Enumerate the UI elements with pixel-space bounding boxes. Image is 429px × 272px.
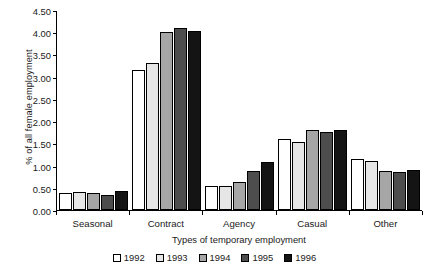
legend-label-1996: 1996 [295,252,316,263]
plot-area: 0.000.501.001.502.002.503.003.504.004.50 [56,11,422,211]
x-axis-tickmark [422,211,423,215]
chart-legend: 19921993199419951996 [0,252,429,263]
bar-group-other [349,11,422,210]
legend-item-1995[interactable]: 1995 [241,252,273,263]
bar-casual-1996 [334,130,347,210]
bar-casual-1994 [306,130,319,210]
x-axis-category-labels: SeasonalContractAgencyCasualOther [56,218,422,229]
bar-other-1992 [351,159,364,210]
bar-group-contract [130,11,203,210]
legend-label-1994: 1994 [210,252,231,263]
bar-seasonal-1993 [73,192,86,210]
legend-label-1995: 1995 [252,252,273,263]
bar-group-casual [276,11,349,210]
y-axis-tickmark [53,122,56,123]
x-axis-tickmark [56,211,57,215]
bar-group-agency [203,11,276,210]
y-axis-tickmark [53,78,56,79]
x-axis-tickmark [202,211,203,215]
legend-item-1994[interactable]: 1994 [199,252,231,263]
y-axis-title: % of all female employment [24,12,34,202]
bar-casual-1995 [320,132,333,210]
y-axis-tickmark [53,189,56,190]
legend-label-1992: 1992 [124,252,145,263]
bar-agency-1992 [205,186,218,210]
bar-groups [57,11,422,210]
y-axis-tickmark [53,144,56,145]
legend-swatch-icon-1995 [241,254,249,262]
x-axis-label-seasonal: Seasonal [56,218,129,229]
x-axis-label-contract: Contract [129,218,202,229]
bar-casual-1992 [278,139,291,210]
bar-contract-1992 [132,70,145,210]
bar-agency-1996 [261,162,274,210]
bar-other-1996 [407,170,420,210]
bar-contract-1993 [146,63,159,210]
legend-item-1993[interactable]: 1993 [156,252,188,263]
legend-item-1992[interactable]: 1992 [113,252,145,263]
x-axis-label-other: Other [349,218,422,229]
y-axis-tickmark [53,167,56,168]
bar-agency-1993 [219,186,232,210]
bar-agency-1995 [247,171,260,210]
legend-item-1996[interactable]: 1996 [284,252,316,263]
x-axis-title: Types of temporary employment [56,234,422,245]
y-axis-tickmark [53,11,56,12]
bar-agency-1994 [233,182,246,210]
bar-seasonal-1992 [59,193,72,210]
bar-contract-1996 [188,31,201,210]
bar-casual-1993 [292,142,305,210]
bar-seasonal-1994 [87,193,100,210]
bar-group-seasonal [57,11,130,210]
bar-contract-1995 [174,28,187,210]
bar-seasonal-1996 [115,191,128,210]
x-axis-ticks [56,211,422,216]
x-axis-tickmark [276,211,277,215]
x-axis-label-agency: Agency [202,218,275,229]
x-axis-label-casual: Casual [276,218,349,229]
bar-other-1993 [365,161,378,210]
bar-other-1995 [393,172,406,210]
legend-swatch-icon-1992 [113,254,121,262]
legend-label-1993: 1993 [167,252,188,263]
legend-swatch-icon-1996 [284,254,292,262]
x-axis-tickmark [129,211,130,215]
legend-swatch-icon-1993 [156,254,164,262]
legend-swatch-icon-1994 [199,254,207,262]
bar-chart: % of all female employment 0.000.501.001… [0,0,429,272]
y-axis-tickmark [53,100,56,101]
bar-other-1994 [379,171,392,210]
bar-contract-1994 [160,32,173,210]
y-axis-tickmark [53,55,56,56]
y-axis-tickmark [53,33,56,34]
x-axis-tickmark [349,211,350,215]
bar-seasonal-1995 [101,195,114,210]
